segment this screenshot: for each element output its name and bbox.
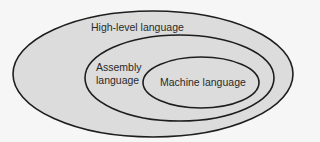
machine-language-label: Machine language — [160, 76, 246, 89]
assembly-label-line-1: Assembly — [96, 61, 142, 74]
assembly-language-label: Assembly language — [96, 61, 142, 87]
assembly-label-line-2: language — [96, 74, 142, 87]
high-level-language-label: High-level language — [91, 21, 184, 34]
